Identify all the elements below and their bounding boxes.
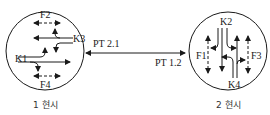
k3-flow-arrows-icon bbox=[34, 29, 73, 52]
label-f2: F2 bbox=[40, 9, 51, 20]
label-k3: K3 bbox=[73, 33, 85, 44]
label-f1: F1 bbox=[196, 50, 207, 61]
label-pt-1-2: PT 1.2 bbox=[155, 57, 182, 68]
phase-1: F2 K3 K1 F4 bbox=[6, 9, 85, 90]
phase-2-caption: 2 현시 bbox=[216, 100, 241, 110]
phase-2: K2 F1 K4 F3 bbox=[189, 12, 267, 90]
label-f3: F3 bbox=[251, 50, 262, 61]
k2-flow-arrows-icon bbox=[211, 28, 236, 71]
label-k1: K1 bbox=[15, 53, 27, 64]
label-k4: K4 bbox=[228, 79, 240, 90]
k4-flow-arrows-icon bbox=[222, 36, 245, 78]
phase-1-caption: 1 현시 bbox=[33, 100, 58, 110]
label-f4: F4 bbox=[40, 79, 51, 90]
phase-diagram: F2 K3 K1 F4 1 현시 PT 2.1 PT 1.2 K2 bbox=[0, 0, 270, 115]
label-pt-2-1: PT 2.1 bbox=[93, 38, 120, 49]
label-k2: K2 bbox=[220, 16, 232, 27]
